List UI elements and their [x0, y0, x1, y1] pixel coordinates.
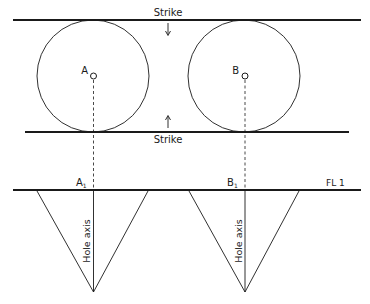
point-b-label: B	[232, 65, 239, 76]
circle-a	[37, 20, 149, 132]
point-a1-label: A1	[76, 177, 87, 189]
circle-b	[188, 20, 300, 132]
hole-cone-b	[189, 191, 299, 292]
arrow-up-icon	[166, 116, 171, 129]
hole-center-a	[91, 73, 97, 79]
hole-axis-label-b: Hole axis	[233, 219, 244, 263]
hole-layout-diagram: Strike A B Strike A1 B1 FL 1 Hole axis H…	[0, 0, 370, 304]
hole-axis-label-a: Hole axis	[81, 219, 92, 263]
arrow-down-icon	[166, 23, 171, 36]
point-a-label: A	[81, 65, 88, 76]
strike-label-top: Strike	[154, 7, 183, 18]
floor-level-label: FL 1	[326, 178, 345, 188]
point-b1-label: B1	[227, 177, 238, 189]
hole-center-b	[242, 73, 248, 79]
hole-cone-a	[37, 191, 148, 292]
strike-label-bottom: Strike	[154, 134, 183, 145]
